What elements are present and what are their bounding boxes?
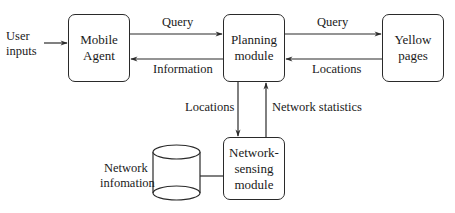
mobile-agent-line-2: Agent [80,48,118,64]
user-inputs-line-2: inputs [6,44,37,59]
network-information-label: Network infomation [100,161,155,191]
database-cylinder-icon [153,145,200,200]
edge-label-query-1: Query [162,15,193,30]
edge-label-locations-down: Locations [185,100,234,115]
user-inputs-label: User inputs [6,29,37,59]
mobile-agent-node: Mobile Agent [68,14,130,82]
yellow-pages-line-1: Yellow [395,32,432,48]
edge-label-query-2: Query [317,15,348,30]
edge-label-information: Information [153,62,213,77]
yellow-pages-line-2: pages [395,48,432,64]
planning-module-line-1: Planning [231,32,277,48]
network-information-line-1: Network [100,161,155,176]
network-sensing-line-3: module [229,177,279,193]
planning-module-node: Planning module [223,14,285,82]
network-information-line-2: infomation [100,176,155,191]
network-sensing-line-1: Network- [229,145,279,161]
edge-label-locations-yellow: Locations [312,62,361,77]
yellow-pages-node: Yellow pages [382,14,444,82]
mobile-agent-line-1: Mobile [80,32,118,48]
network-sensing-module-node: Network- sensing module [223,137,285,200]
planning-module-line-2: module [231,48,277,64]
user-inputs-line-1: User [6,29,37,44]
edge-label-network-statistics: Network statistics [272,100,362,115]
network-sensing-line-2: sensing [229,161,279,177]
